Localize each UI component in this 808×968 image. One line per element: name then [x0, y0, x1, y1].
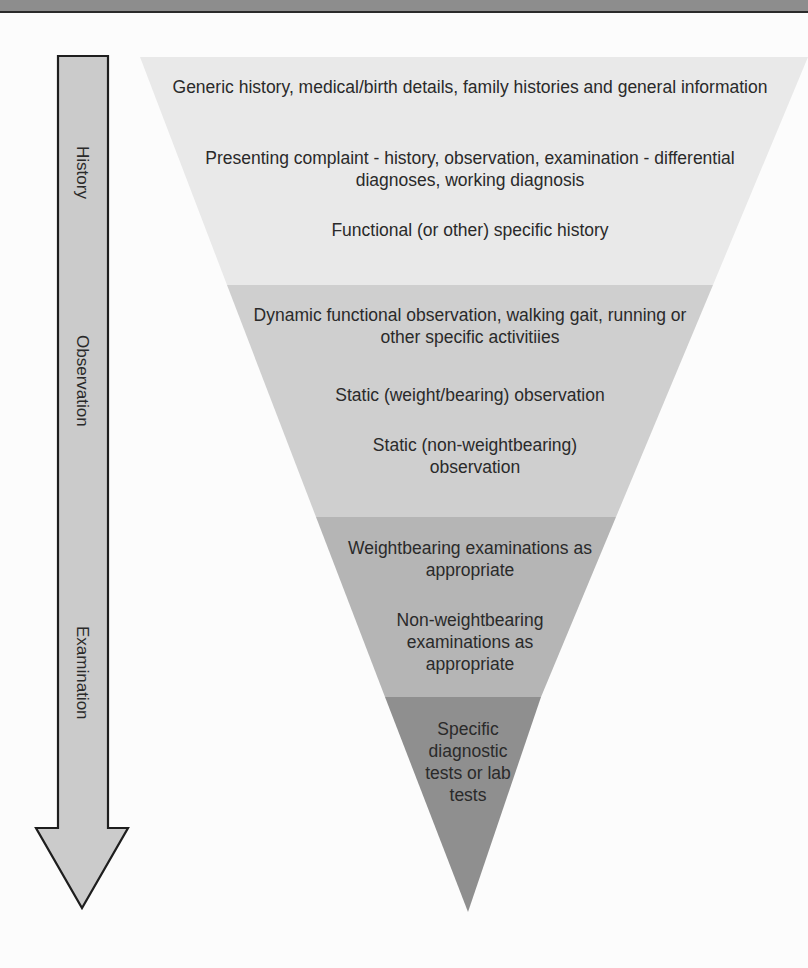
funnel-item-functional-history: Functional (or other) specific history	[200, 219, 740, 241]
arrow-label-history: History	[72, 146, 92, 199]
funnel-item-static-non-weightbearing: Static (non-weightbearing) observation	[340, 434, 610, 478]
funnel-item-non-weightbearing-exams: Non-weightbearing examinations as approp…	[375, 609, 565, 675]
arrow-label-observation: Observation	[72, 335, 92, 427]
diagram-canvas	[0, 0, 808, 968]
arrow-label-examination: Examination	[72, 626, 92, 720]
funnel-item-dynamic-observation: Dynamic functional observation, walking …	[250, 304, 690, 348]
funnel-item-specific-tests: Specific diagnostic tests or lab tests	[413, 718, 523, 806]
funnel-item-weightbearing-exams: Weightbearing examinations as appropriat…	[330, 537, 610, 581]
funnel-item-presenting-complaint: Presenting complaint - history, observat…	[180, 147, 760, 191]
funnel-item-generic-history: Generic history, medical/birth details, …	[150, 76, 790, 98]
funnel-item-static-weightbearing: Static (weight/bearing) observation	[280, 384, 660, 406]
